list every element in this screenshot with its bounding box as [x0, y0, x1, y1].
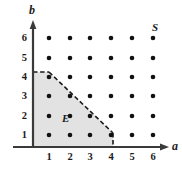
- lattice-point-figure: b a S E 1 2 3 4 5 6 1 2 3 4 5 6: [0, 0, 182, 169]
- lattice-dot: [88, 114, 93, 119]
- lattice-dot: [47, 114, 52, 119]
- lattice-dot: [130, 75, 135, 80]
- lattice-dot: [88, 94, 93, 99]
- lattice-dot: [88, 56, 93, 61]
- x-tick-label-1: 1: [42, 152, 56, 163]
- lattice-dot: [109, 56, 114, 61]
- x-tick-label-2: 2: [63, 152, 77, 163]
- lattice-dot: [109, 75, 114, 80]
- lattice-dot: [151, 36, 156, 41]
- lattice-dot: [47, 36, 52, 41]
- lattice-dot: [109, 36, 114, 41]
- lattice-dot: [68, 56, 73, 61]
- lattice-dot: [47, 94, 52, 99]
- lattice-dot: [130, 56, 135, 61]
- lattice-dot: [88, 75, 93, 80]
- lattice-dot: [151, 94, 156, 99]
- lattice-dot: [130, 94, 135, 99]
- lattice-dot: [151, 133, 156, 138]
- lattice-dot: [68, 36, 73, 41]
- set-label-S: S: [152, 22, 158, 33]
- x-axis-label: a: [172, 140, 178, 152]
- x-tick-label-3: 3: [83, 152, 97, 163]
- shaded-region-E: [33, 72, 113, 147]
- lattice-dot: [109, 114, 114, 119]
- lattice-dot: [109, 133, 114, 138]
- lattice-dot: [88, 36, 93, 41]
- lattice-dot: [68, 75, 73, 80]
- x-tick-label-5: 5: [125, 152, 139, 163]
- lattice-dot: [47, 56, 52, 61]
- y-axis-arrowhead: [30, 20, 37, 29]
- lattice-dot: [88, 133, 93, 138]
- y-tick-label-2: 2: [13, 111, 27, 122]
- x-axis-arrowhead: [160, 144, 169, 151]
- lattice-dot: [68, 133, 73, 138]
- region-label-E: E: [62, 113, 69, 124]
- lattice-dot: [130, 114, 135, 119]
- y-tick-label-5: 5: [13, 53, 27, 64]
- lattice-dot: [151, 56, 156, 61]
- lattice-dot: [151, 114, 156, 119]
- y-tick-label-4: 4: [13, 72, 27, 83]
- x-tick-label-6: 6: [146, 152, 160, 163]
- y-tick-label-6: 6: [13, 33, 27, 44]
- lattice-dot: [130, 36, 135, 41]
- lattice-dot: [47, 75, 52, 80]
- y-tick-label-1: 1: [13, 130, 27, 141]
- lattice-dot: [109, 94, 114, 99]
- lattice-dot: [151, 75, 156, 80]
- y-axis-label: b: [29, 4, 35, 16]
- x-tick-label-4: 4: [104, 152, 118, 163]
- lattice-dot: [130, 133, 135, 138]
- lattice-dot: [47, 133, 52, 138]
- y-tick-label-3: 3: [13, 91, 27, 102]
- lattice-dot: [68, 94, 73, 99]
